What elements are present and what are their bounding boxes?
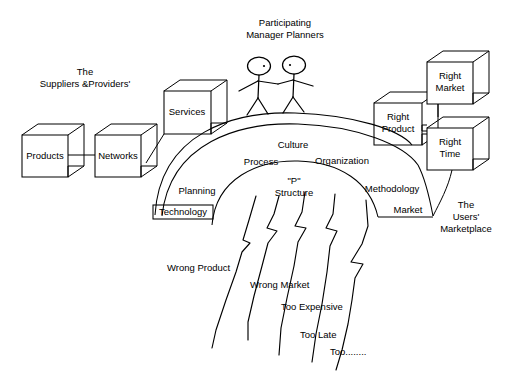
arch-label-technology: Technology bbox=[159, 206, 207, 217]
cube-right-product-label1: Right bbox=[387, 111, 410, 122]
cube-right-market-label1: Right bbox=[439, 70, 462, 81]
arch-label-process: Process bbox=[244, 156, 279, 167]
cube-networks-label: Networks bbox=[98, 150, 138, 161]
cube-products[interactable]: Products bbox=[22, 124, 84, 177]
jagged-line-5 bbox=[336, 200, 368, 370]
cube-right-product-label2: Product bbox=[382, 123, 415, 134]
demand-heading-line2: Users' bbox=[453, 211, 480, 222]
supply-heading-line2: Suppliers &Providers' bbox=[40, 78, 131, 89]
cube-right-time[interactable]: Right Time bbox=[427, 117, 489, 170]
failure-label-too-late: Too Late bbox=[300, 329, 336, 340]
cube-services-label: Services bbox=[169, 106, 206, 117]
failure-label-wrong-product: Wrong Product bbox=[167, 262, 231, 273]
arch-label-planning: Planning bbox=[179, 185, 216, 196]
arch-label-methodology: Methodology bbox=[365, 183, 420, 194]
people-heading-line1: Participating bbox=[259, 17, 311, 28]
failure-label-too-etc: Too........ bbox=[330, 346, 366, 357]
stick-figure-left bbox=[239, 57, 278, 115]
demand-heading-line1: The bbox=[458, 199, 474, 210]
demand-heading-line3: Marketplace bbox=[440, 223, 492, 234]
cube-right-market-label2: Market bbox=[435, 82, 464, 93]
arch-label-culture: Culture bbox=[278, 139, 309, 150]
arch-label-technology-box: Technology bbox=[153, 205, 213, 219]
failure-label-wrong-market: Wrong Market bbox=[250, 279, 310, 290]
cube-products-label: Products bbox=[26, 150, 64, 161]
arch-label-organization: Organization bbox=[315, 155, 369, 166]
diagram-canvas: The Suppliers &Providers' Participating … bbox=[0, 0, 510, 390]
arch-label-structure: Structure bbox=[275, 187, 314, 198]
cube-right-time-label2: Time bbox=[440, 148, 461, 159]
arch-label-p-quote: "P" bbox=[287, 175, 300, 186]
arch-label-market: Market bbox=[393, 204, 422, 215]
diagram-svg: The Suppliers &Providers' Participating … bbox=[0, 0, 510, 390]
jagged-line-2 bbox=[248, 196, 279, 340]
connector-networks-services bbox=[146, 134, 164, 163]
cube-right-time-label1: Right bbox=[439, 136, 462, 147]
people-heading-line2: Manager Planners bbox=[246, 29, 324, 40]
cube-networks[interactable]: Networks bbox=[95, 124, 157, 177]
supply-heading-line1: The bbox=[77, 66, 93, 77]
stick-figure-right bbox=[278, 56, 313, 113]
failure-label-too-expensive: Too Expensive bbox=[281, 301, 343, 312]
connector-right-time-marketplace bbox=[433, 170, 452, 216]
cube-right-market[interactable]: Right Market bbox=[427, 51, 489, 104]
